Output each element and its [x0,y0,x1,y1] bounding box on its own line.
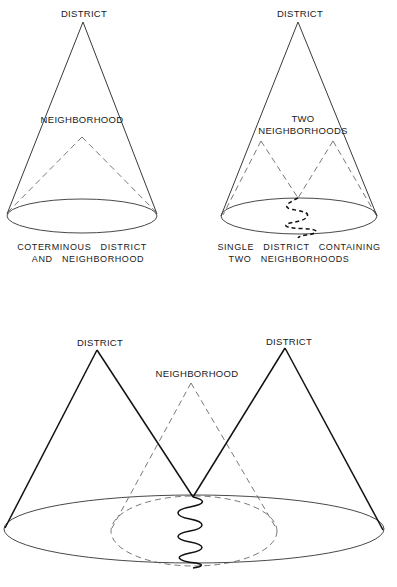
neighborhood-cone-right-edge [191,383,276,528]
neighborhood-boundary-dashed-wave [286,198,316,238]
right-neighborhood-cone-inner-edge [298,141,333,198]
diagram-single-district-two-neighborhoods: DISTRICT TWO NEIGHBORHOODS SINGLE DISTRI… [217,8,380,264]
right-district-cone-outer-edge [285,348,383,530]
right-district-label: DISTRICT [266,336,312,347]
diagram-coterminous: DISTRICT NEIGHBORHOOD COTERMINOUS DISTRI… [7,8,157,264]
neighborhood-label-line-1: TWO [291,113,314,124]
left-neighborhood-cone-inner-edge [261,141,298,198]
district-label: DISTRICT [277,8,323,19]
right-neighborhood-cone-outer-edge [333,141,376,215]
diagram-neighborhood-across-two-districts: DISTRICT DISTRICT NEIGHBORHOOD [4,336,384,568]
left-district-label: DISTRICT [77,337,123,348]
district-cone-left-edge [221,22,298,216]
neighborhood-label: NEIGHBORHOOD [41,114,124,125]
district-label: DISTRICT [61,8,107,19]
caption-line-2: TWO NEIGHBORHOODS [229,254,350,264]
neighborhood-label: NEIGHBORHOOD [156,368,239,379]
neighborhood-label-line-2: NEIGHBORHOODS [258,125,347,136]
neighborhood-cone-left-edge [112,383,191,528]
district-neighborhood-diagram: DISTRICT NEIGHBORHOOD COTERMINOUS DISTRI… [0,0,397,587]
district-base-ellipse [7,199,157,233]
district-boundary-wave [178,497,202,568]
caption-line-1: COTERMINOUS DISTRICT [17,242,147,252]
caption-line-2: AND NEIGHBORHOOD [32,254,144,264]
caption-line-1: SINGLE DISTRICT CONTAINING [217,242,380,252]
